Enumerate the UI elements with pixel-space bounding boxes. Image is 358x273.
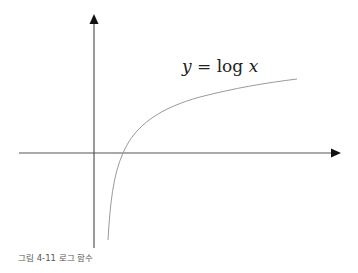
equation-equals: = [197,56,211,76]
equation-func: log [217,56,244,76]
y-axis-arrow-icon [90,14,99,24]
equation-y: y [182,56,192,76]
log-curve [108,79,297,240]
log-function-figure: y = log x 그림 4-11 로그 함수 [0,0,358,273]
figure-caption: 그림 4-11 로그 함수 [18,251,93,263]
x-axis-arrow-icon [331,149,341,158]
equation-x: x [249,56,259,76]
plot-area [0,0,358,273]
equation-label: y = log x [182,56,258,76]
